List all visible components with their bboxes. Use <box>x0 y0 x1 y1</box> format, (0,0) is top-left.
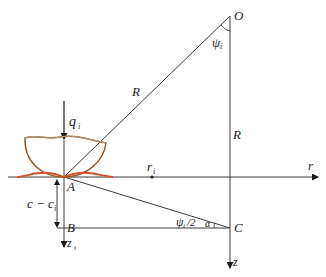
label-depth-sub: i <box>54 204 56 213</box>
label-z-i: z <box>66 236 72 250</box>
label-R-slant: R <box>131 84 140 99</box>
label-alpha: α <box>205 218 211 229</box>
angle-arc-psi <box>221 25 230 31</box>
label-B: B <box>67 220 75 235</box>
label-R-vertical: R <box>232 127 241 142</box>
label-A: A <box>66 179 75 194</box>
label-psi-half-sub: i <box>183 222 185 230</box>
label-C: C <box>234 220 243 235</box>
radius-line-OA <box>64 16 230 177</box>
label-psi-top-sub: i <box>220 42 222 51</box>
sphere-bowl <box>25 136 106 177</box>
label-r-axis: r <box>308 158 314 173</box>
label-O: O <box>234 8 244 23</box>
contact-deformation <box>17 173 113 177</box>
label-z-axis: z <box>232 255 238 269</box>
contact-geometry-diagram: O A B C R R ψ i ψ i /2 α q i r i r z z i… <box>0 0 326 277</box>
depth-arrow-up-icon <box>54 179 60 185</box>
angle-arc-alpha <box>214 223 215 228</box>
label-depth: c − c <box>27 196 54 211</box>
depth-arrow-down-icon <box>54 222 60 228</box>
label-z-i-sub: i <box>74 244 76 252</box>
label-psi-half-suffix: /2 <box>186 216 196 228</box>
label-q-sub: i <box>78 122 80 131</box>
label-q: q <box>69 114 76 129</box>
label-r-i-sub: i <box>153 167 155 176</box>
